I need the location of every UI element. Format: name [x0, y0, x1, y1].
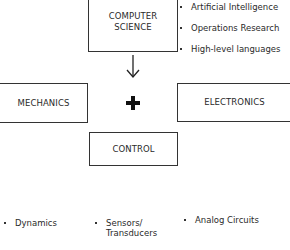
bullet-icon — [180, 48, 182, 50]
computer-science-label-line1: COMPUTER — [109, 11, 158, 22]
computer-science-label-line2: SCIENCE — [109, 22, 158, 33]
cs-topic-hll: High-level languages — [180, 44, 281, 54]
computer-science-box: COMPUTER SCIENCE — [88, 0, 178, 52]
down-arrow-icon — [126, 55, 140, 79]
bullet-icon — [95, 222, 97, 224]
bottom-topic-dynamics: Dynamics — [4, 218, 57, 228]
mechanics-label: MECHANICS — [18, 98, 70, 109]
mechanics-box: MECHANICS — [0, 83, 88, 123]
bottom-topic-sensors: Sensors/ Transducers — [95, 218, 157, 238]
plus-icon — [125, 95, 141, 111]
bullet-icon — [180, 6, 182, 8]
control-label: CONTROL — [112, 144, 154, 155]
bullet-icon — [180, 27, 182, 29]
bottom-topic-analog: Analog Circuits — [184, 215, 259, 225]
electronics-label: ELECTRONICS — [204, 97, 265, 108]
control-box: CONTROL — [89, 132, 178, 166]
bullet-icon — [184, 219, 186, 221]
electronics-box: ELECTRONICS — [177, 83, 290, 122]
bullet-icon — [4, 222, 6, 224]
cs-topic-or: Operations Research — [180, 23, 279, 33]
cs-topic-ai: Artificial Intelligence — [180, 2, 278, 12]
